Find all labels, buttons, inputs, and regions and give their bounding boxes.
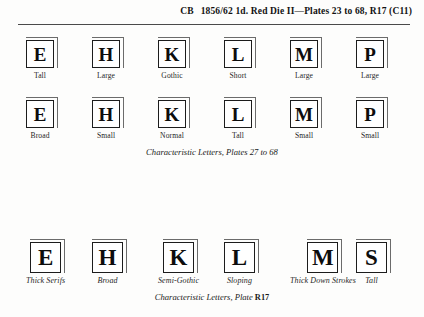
letter-glyph: L bbox=[232, 246, 247, 269]
header-title: 1856/62 1d. Red Die II—Plates 23 to 68, … bbox=[201, 6, 412, 16]
letter-label: Small bbox=[290, 131, 318, 140]
scanned-page: CB1856/62 1d. Red Die II—Plates 23 to 68… bbox=[0, 0, 424, 317]
letter-label: Gothic bbox=[158, 71, 186, 80]
letter-box-frame: H bbox=[92, 40, 120, 68]
letter-box-frame: L bbox=[224, 242, 255, 273]
letter-label: Tall bbox=[26, 71, 54, 80]
letter-cell: PSmall bbox=[356, 100, 384, 140]
caption-lower: Characteristic Letters, PlateR17 bbox=[0, 292, 424, 302]
letter-label: Tall bbox=[224, 131, 252, 140]
letter-box: M bbox=[307, 242, 338, 273]
letter-box-frame: E bbox=[26, 40, 54, 68]
letter-box-frame: M bbox=[290, 40, 318, 68]
letter-glyph: P bbox=[364, 105, 376, 124]
letter-box: K bbox=[163, 242, 194, 273]
letter-box: E bbox=[26, 100, 54, 128]
letter-label: Short bbox=[224, 71, 252, 80]
letter-box-frame: M bbox=[290, 100, 318, 128]
letter-box: H bbox=[92, 40, 120, 68]
letter-box: H bbox=[92, 100, 120, 128]
letter-label: Sloping bbox=[224, 276, 255, 285]
letter-box: S bbox=[356, 242, 387, 273]
letter-box-frame: M bbox=[307, 242, 338, 273]
letter-glyph: P bbox=[364, 45, 376, 64]
letter-glyph: M bbox=[295, 45, 313, 64]
letter-box-frame: K bbox=[163, 242, 194, 273]
caption-upper-text: Characteristic Letters, Plates 27 to 68 bbox=[146, 147, 278, 157]
letter-cell: PLarge bbox=[356, 40, 384, 80]
caption-upper: Characteristic Letters, Plates 27 to 68 bbox=[0, 147, 424, 157]
letter-cell: LShort bbox=[224, 40, 252, 80]
letter-glyph: L bbox=[232, 45, 245, 64]
letter-cell: MSmall bbox=[290, 100, 318, 140]
letter-label: Large bbox=[290, 71, 318, 80]
letter-glyph: E bbox=[34, 105, 47, 124]
caption-lower-plate: R17 bbox=[255, 293, 269, 302]
letter-box: L bbox=[224, 40, 252, 68]
letter-label: Large bbox=[92, 71, 120, 80]
letter-cell: KSemi-Gothic bbox=[158, 242, 199, 285]
letter-cell: EThick Serifs bbox=[26, 242, 65, 285]
letter-box-frame: K bbox=[158, 100, 186, 128]
letter-box-frame: S bbox=[356, 242, 387, 273]
letter-label: Thick Serifs bbox=[26, 276, 65, 285]
letter-box: P bbox=[356, 100, 384, 128]
letter-box: L bbox=[224, 242, 255, 273]
header-rule bbox=[18, 24, 410, 25]
header-code: CB bbox=[180, 6, 194, 16]
letter-label: Small bbox=[356, 131, 384, 140]
letter-glyph: K bbox=[170, 246, 188, 269]
letter-box-frame: H bbox=[92, 242, 123, 273]
letter-box: M bbox=[290, 40, 318, 68]
letter-cell: MThick Down Strokes bbox=[290, 242, 356, 285]
letter-box-frame: H bbox=[92, 100, 120, 128]
letter-glyph: S bbox=[365, 246, 378, 269]
letter-box-frame: K bbox=[158, 40, 186, 68]
letter-box: L bbox=[224, 100, 252, 128]
letter-cell: ETall bbox=[26, 40, 54, 80]
letter-glyph: E bbox=[34, 45, 47, 64]
letter-box: E bbox=[30, 242, 61, 273]
letter-glyph: K bbox=[165, 105, 180, 124]
letter-box: K bbox=[158, 100, 186, 128]
letter-label: Semi-Gothic bbox=[158, 276, 199, 285]
letter-label: Small bbox=[92, 131, 120, 140]
letter-glyph: H bbox=[99, 246, 117, 269]
letter-glyph: K bbox=[165, 45, 180, 64]
letter-cell: STall bbox=[356, 242, 387, 285]
letter-glyph: L bbox=[232, 105, 245, 124]
letter-cell: KGothic bbox=[158, 40, 186, 80]
letter-label: Broad bbox=[26, 131, 54, 140]
letter-box-frame: L bbox=[224, 40, 252, 68]
letter-label: Tall bbox=[356, 276, 387, 285]
letter-cell: KNormal bbox=[158, 100, 186, 140]
letter-cell: EBroad bbox=[26, 100, 54, 140]
letter-box-frame: E bbox=[30, 242, 61, 273]
letter-box: E bbox=[26, 40, 54, 68]
letter-label: Large bbox=[356, 71, 384, 80]
letter-label: Broad bbox=[92, 276, 123, 285]
letter-box-frame: E bbox=[26, 100, 54, 128]
letter-box: M bbox=[290, 100, 318, 128]
letter-label: Thick Down Strokes bbox=[290, 276, 356, 285]
letter-box: K bbox=[158, 40, 186, 68]
letter-cell: LSloping bbox=[224, 242, 255, 285]
letter-glyph: H bbox=[99, 45, 114, 64]
letter-glyph: M bbox=[312, 246, 334, 269]
letter-cell: HLarge bbox=[92, 40, 120, 80]
letter-cell: MLarge bbox=[290, 40, 318, 80]
page-header: CB1856/62 1d. Red Die II—Plates 23 to 68… bbox=[0, 6, 412, 16]
letter-box-frame: P bbox=[356, 40, 384, 68]
letter-cell: LTall bbox=[224, 100, 252, 140]
letter-glyph: M bbox=[295, 105, 313, 124]
letter-label: Normal bbox=[158, 131, 186, 140]
letter-cell: HBroad bbox=[92, 242, 123, 285]
letter-glyph: H bbox=[99, 105, 114, 124]
letter-box: H bbox=[92, 242, 123, 273]
letter-glyph: E bbox=[38, 246, 53, 269]
letter-box-frame: L bbox=[224, 100, 252, 128]
letter-cell: HSmall bbox=[92, 100, 120, 140]
caption-lower-text: Characteristic Letters, Plate bbox=[155, 292, 253, 302]
letter-box-frame: P bbox=[356, 100, 384, 128]
letter-box: P bbox=[356, 40, 384, 68]
